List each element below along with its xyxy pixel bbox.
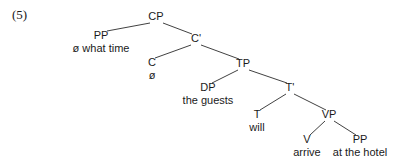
tree-branch-cp-pp1: [107, 23, 150, 31]
tree-node-pp1: PP: [94, 29, 109, 41]
tree-node-tbar: T': [286, 81, 295, 93]
tree-node-pp1_term: ø what time: [73, 42, 130, 54]
tree-node-tp: TP: [236, 57, 250, 69]
tree-node-labels: CPPPø what timeC'CøTPDPthe guestsT'Twill…: [73, 10, 388, 158]
tree-node-cbar: C': [191, 32, 201, 44]
tree-branch-cp-cbar: [163, 23, 192, 34]
syntax-tree-figure: (5) CPPPø what timeC'CøTPDPthe guestsT'T…: [0, 0, 398, 166]
tree-branch-vp-v: [310, 121, 325, 135]
tree-node-dp: DP: [200, 81, 215, 93]
tree-branch-lines: [107, 23, 356, 135]
tree-branch-tp-dp: [212, 70, 238, 83]
tree-node-pp2_term: at the hotel: [333, 146, 387, 158]
tree-node-t: T: [254, 108, 261, 120]
tree-node-t_term: will: [248, 121, 264, 133]
tree-node-v: V: [303, 133, 311, 145]
tree-node-cp: CP: [148, 10, 163, 22]
tree-branch-tbar-t: [260, 94, 286, 110]
tree-branch-cbar-c: [155, 45, 191, 58]
tree-node-dp_term: the guests: [183, 94, 234, 106]
tree-branch-tp-tbar: [249, 70, 287, 83]
tree-node-vp: VP: [322, 108, 337, 120]
tree-node-pp2: PP: [353, 133, 368, 145]
tree-node-c_term: ø: [149, 69, 156, 81]
tree-branch-cbar-tp: [201, 45, 239, 59]
tree-node-c: C: [148, 56, 156, 68]
tree-diagram-canvas: CPPPø what timeC'CøTPDPthe guestsT'Twill…: [0, 0, 398, 166]
tree-node-v_term: arrive: [293, 146, 321, 158]
